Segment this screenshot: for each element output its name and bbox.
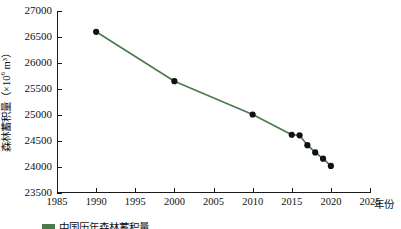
- data-point: [304, 142, 310, 148]
- data-point: [328, 163, 334, 169]
- series-markers: [93, 29, 334, 169]
- data-point: [312, 149, 318, 155]
- caption-legend-swatch: [42, 224, 55, 229]
- data-point: [250, 111, 256, 117]
- data-point: [320, 156, 326, 162]
- data-point: [171, 78, 177, 84]
- data-point: [296, 132, 302, 138]
- figure-container: 森林蓄积量（×106 m³） 2350024000245002500025500…: [0, 0, 401, 229]
- caption-text: 中国历年森林蓄积量: [59, 222, 149, 229]
- data-point: [289, 132, 295, 138]
- series-line: [96, 32, 331, 166]
- data-point: [93, 29, 99, 35]
- figure-caption: 中国历年森林蓄积量: [42, 219, 149, 229]
- data-series-layer: [0, 0, 401, 229]
